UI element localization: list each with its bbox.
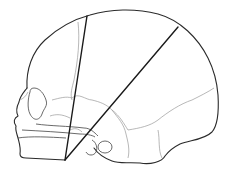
sphenoid-suture [50,115,70,118]
ear-opening [98,141,112,153]
occipital-suture [158,130,162,158]
squamosal-suture [52,96,128,130]
coronal-suture [71,22,79,100]
skull-diagram [0,0,231,175]
temporal-detail [112,110,129,158]
zygomatic-arch [36,124,98,136]
orbit [28,88,46,119]
cranium-outline [27,10,218,164]
mandible-detail [70,129,82,132]
jaw-line [18,137,66,138]
lambdoid-suture [128,88,214,130]
mastoid [86,140,97,155]
skull-drawing [0,0,231,175]
maxilla-line [22,130,95,137]
